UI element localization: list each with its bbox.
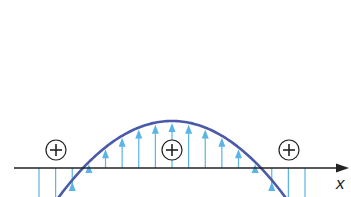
- arrowhead-icon: [119, 138, 126, 147]
- arrowhead-icon: [152, 125, 159, 134]
- arrowhead-icon: [218, 138, 225, 147]
- charge-symbols: [46, 140, 299, 160]
- arrowhead-icon: [185, 125, 192, 134]
- arrowhead-icon: [169, 123, 176, 132]
- positive-charge-icon: [46, 140, 66, 160]
- positive-charge-icon: [279, 140, 299, 160]
- x-axis: [14, 164, 349, 173]
- x-axis-label: x: [336, 174, 345, 194]
- axis-arrowhead-icon: [336, 164, 349, 173]
- field-diagram: [0, 0, 351, 197]
- positive-charge-icon: [162, 140, 182, 160]
- arrowhead-icon: [202, 130, 209, 139]
- arrowhead-icon: [135, 130, 142, 139]
